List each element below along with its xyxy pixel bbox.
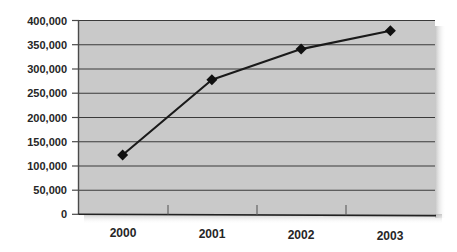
chart-canvas: 400,000 350,000 300,000 250,000 200,000 …: [0, 0, 457, 252]
y-tick-label-300000: 300,000: [27, 63, 67, 75]
y-tick-label-50000: 50,000: [33, 184, 67, 196]
y-tick-label-350000: 350,000: [27, 39, 67, 51]
x-tick-label-2001: 2001: [199, 227, 226, 241]
x-tick-label-2000: 2000: [110, 226, 137, 240]
y-tick-label-200000: 200,000: [27, 112, 67, 124]
y-tick-label-100000: 100,000: [27, 160, 67, 172]
y-tick-label-250000: 250,000: [27, 87, 67, 99]
y-tick-label-400000: 400,000: [27, 15, 67, 27]
y-tick-label-0: 0: [61, 208, 67, 220]
y-tick-label-150000: 150,000: [27, 136, 67, 148]
x-tick-label-2002: 2002: [288, 228, 315, 242]
plot-shadow-right: [435, 26, 446, 218]
x-tick-label-2003: 2003: [377, 229, 404, 243]
line-chart-figure: 400,000 350,000 300,000 250,000 200,000 …: [0, 0, 457, 252]
